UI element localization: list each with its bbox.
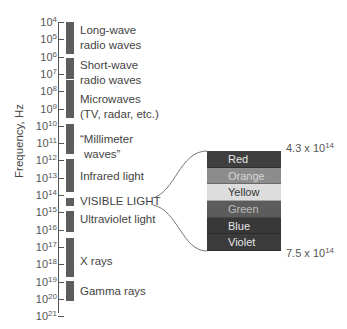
high-frequency-label: 7.5 x 1014 — [286, 246, 334, 259]
mantissa: 7.5 x 10 — [286, 247, 325, 259]
band-orange: Orange — [207, 168, 281, 185]
visible-spectrum-box: RedOrangeYellowGreenBlueViolet — [207, 151, 281, 251]
band-green: Green — [207, 201, 281, 218]
band-red: Red — [207, 151, 281, 168]
band-blue: Blue — [207, 218, 281, 235]
exponent: 14 — [325, 246, 334, 255]
low-frequency-label: 4.3 x 1014 — [286, 141, 334, 154]
band-yellow: Yellow — [207, 184, 281, 201]
visible-light-connectors — [0, 0, 347, 329]
exponent: 14 — [325, 141, 334, 150]
mantissa: 4.3 x 10 — [286, 142, 325, 154]
band-violet: Violet — [207, 234, 281, 251]
